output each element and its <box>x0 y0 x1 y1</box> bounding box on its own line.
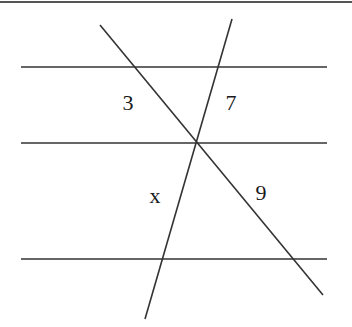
label-x: x <box>150 185 161 207</box>
label-3: 3 <box>123 92 134 114</box>
diagram-canvas <box>0 0 352 327</box>
label-7: 7 <box>226 92 237 114</box>
transversal-descending <box>100 25 323 295</box>
label-9: 9 <box>256 182 267 204</box>
parallel-lines <box>21 67 327 259</box>
transversal-lines <box>100 19 323 319</box>
